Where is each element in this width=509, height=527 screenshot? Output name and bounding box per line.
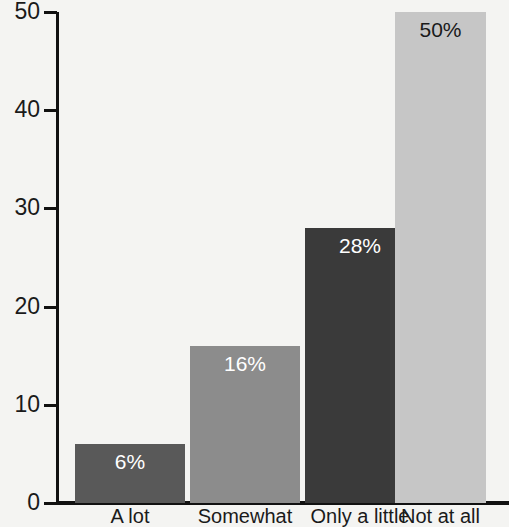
x-axis-category-label: Somewhat <box>190 506 300 526</box>
x-axis-category-label: Not at all <box>395 506 486 526</box>
y-axis-tick-mark <box>44 11 57 14</box>
y-axis-tick-label: 40 <box>0 98 40 121</box>
bar-slot: 6% <box>75 12 185 503</box>
y-axis-tick-label: 50 <box>0 0 40 23</box>
y-axis-tick-mark <box>44 207 57 210</box>
y-axis-tick-label: 10 <box>0 393 40 416</box>
bar-slot: 16% <box>190 12 300 503</box>
bar[interactable]: 6% <box>75 444 185 503</box>
bar[interactable]: 16% <box>190 346 300 503</box>
x-axis-category-labels: A lotSomewhatOnly a littleNot at all <box>59 506 509 525</box>
x-axis-category-label: A lot <box>75 506 185 526</box>
y-axis-tick-label: 30 <box>0 196 40 219</box>
y-axis-tick-mark <box>44 306 57 309</box>
plot-area: 6%16%28%50% <box>59 12 509 503</box>
bar-slot: 50% <box>395 12 486 503</box>
y-axis-tick-label: 20 <box>0 295 40 318</box>
bar-value-label: 16% <box>190 353 300 374</box>
bar[interactable]: 50% <box>395 12 486 503</box>
bar-value-label: 50% <box>395 19 486 40</box>
y-axis-tick-mark <box>44 404 57 407</box>
y-axis-tick-mark <box>44 109 57 112</box>
y-axis-tick-label: 0 <box>0 491 40 514</box>
bar-value-label: 6% <box>75 451 185 472</box>
